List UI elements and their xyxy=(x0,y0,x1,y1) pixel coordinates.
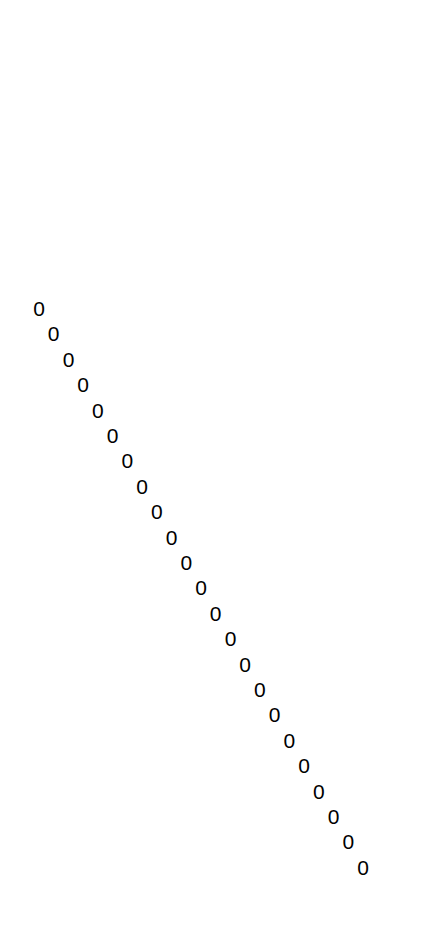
zero-glyph: 0 xyxy=(210,602,222,623)
zero-glyph: 0 xyxy=(195,577,207,598)
zero-glyph: 0 xyxy=(328,806,340,827)
zero-glyph: 0 xyxy=(48,323,60,344)
zero-glyph: 0 xyxy=(357,856,369,877)
zero-glyph: 0 xyxy=(151,501,163,522)
zero-glyph: 0 xyxy=(33,298,45,319)
zero-glyph: 0 xyxy=(92,399,104,420)
zero-glyph: 0 xyxy=(63,348,75,369)
zero-glyph: 0 xyxy=(136,475,148,496)
zero-glyph: 0 xyxy=(122,450,134,471)
page-canvas: 00000000000000000000000 xyxy=(0,0,425,928)
zero-glyph: 0 xyxy=(342,831,354,852)
zero-glyph: 0 xyxy=(166,526,178,547)
zero-glyph: 0 xyxy=(298,755,310,776)
zero-glyph: 0 xyxy=(254,679,266,700)
zero-glyph: 0 xyxy=(284,729,296,750)
zero-glyph: 0 xyxy=(107,425,119,446)
zero-glyph: 0 xyxy=(313,780,325,801)
zero-glyph: 0 xyxy=(77,374,89,395)
zero-glyph: 0 xyxy=(225,628,237,649)
zero-glyph: 0 xyxy=(180,552,192,573)
zero-glyph: 0 xyxy=(269,704,281,725)
zero-glyph: 0 xyxy=(239,653,251,674)
